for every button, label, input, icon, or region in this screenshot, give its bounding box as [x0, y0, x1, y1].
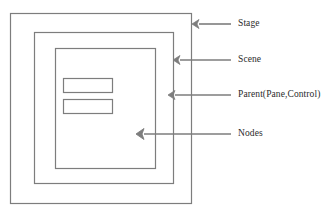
diagram-canvas-root: Stage Scene Parent(Pane,Control) Nodes [0, 0, 327, 211]
callout-line-nodes [136, 129, 231, 140]
node-box-2 [64, 100, 113, 114]
callout-line-stage [192, 20, 231, 29]
node-box-1 [64, 79, 113, 93]
nested-box-diagram [0, 0, 327, 211]
parent-box [56, 49, 156, 169]
callout-line-parent [168, 91, 231, 100]
stage-box [11, 14, 192, 204]
callout-line-scene [173, 56, 231, 65]
